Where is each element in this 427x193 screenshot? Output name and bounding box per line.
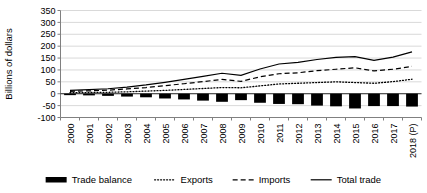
x-tick-label: 2014 — [332, 124, 342, 144]
bar-trade-balance — [330, 94, 342, 107]
legend-item: Imports — [233, 174, 291, 185]
bar-trade-balance — [102, 94, 114, 96]
bar-trade-balance — [197, 94, 209, 101]
chart-container: -100-50050100150200250300350200020012002… — [0, 0, 427, 193]
x-tick-label: 2009 — [237, 124, 247, 144]
x-tick-label: 2013 — [313, 124, 323, 144]
x-tick-label: 2005 — [161, 124, 171, 144]
x-tick-label: 2010 — [256, 124, 266, 144]
trade-chart: -100-50050100150200250300350200020012002… — [0, 0, 427, 193]
x-tick-label: 2003 — [123, 124, 133, 144]
bar-trade-balance — [254, 94, 266, 103]
legend-label: Exports — [181, 174, 213, 185]
bar-trade-balance — [406, 94, 418, 107]
y-tick-label: 300 — [40, 18, 55, 28]
bar-trade-balance — [140, 94, 152, 98]
y-tick-label: 50 — [45, 77, 55, 87]
y-tick-label: 200 — [40, 41, 55, 51]
x-tick-label: 2011 — [275, 124, 285, 143]
x-tick-label: 2018 (P) — [408, 124, 418, 159]
bar-trade-balance — [121, 94, 133, 97]
bar-trade-balance — [178, 94, 190, 100]
y-tick-label: 100 — [40, 65, 55, 75]
bar-trade-balance — [159, 94, 171, 99]
x-tick-label: 2008 — [218, 124, 228, 144]
bar-trade-balance — [216, 94, 228, 102]
bar-trade-balance — [235, 94, 247, 100]
bar-trade-balance — [349, 94, 361, 109]
y-tick-label: -100 — [37, 113, 55, 123]
x-tick-label: 2015 — [351, 124, 361, 144]
bar-trade-balance — [83, 94, 95, 96]
bar-trade-balance — [64, 94, 76, 95]
y-tick-label: 150 — [40, 53, 55, 63]
y-axis-label: Billions of dollars — [3, 28, 14, 100]
legend-item: Exports — [155, 174, 213, 185]
bar-trade-balance — [387, 94, 399, 106]
y-tick-label: -50 — [42, 101, 55, 111]
y-tick-label: 0 — [50, 89, 55, 99]
bar-trade-balance — [292, 94, 304, 104]
y-tick-label: 250 — [40, 29, 55, 39]
legend-item: Total trade — [311, 174, 381, 185]
legend-swatch-trade-balance — [46, 177, 67, 183]
x-tick-label: 2002 — [104, 124, 114, 144]
bar-trade-balance — [311, 94, 323, 106]
x-tick-label: 2001 — [85, 124, 95, 144]
y-tick-label: 350 — [40, 6, 55, 16]
bar-trade-balance — [273, 94, 285, 104]
legend-label: Trade balance — [72, 174, 132, 185]
x-tick-label: 2004 — [142, 124, 152, 144]
x-tick-label: 2016 — [370, 124, 380, 144]
legend-label: Total trade — [337, 174, 381, 185]
x-tick-label: 2012 — [294, 124, 304, 144]
x-tick-label: 2007 — [199, 124, 209, 144]
legend-item: Trade balance — [46, 174, 132, 185]
x-tick-label: 2006 — [180, 124, 190, 144]
bar-trade-balance — [368, 94, 380, 106]
x-tick-label: 2017 — [389, 124, 399, 144]
legend-label: Imports — [259, 174, 291, 185]
x-tick-label: 2000 — [66, 124, 76, 144]
